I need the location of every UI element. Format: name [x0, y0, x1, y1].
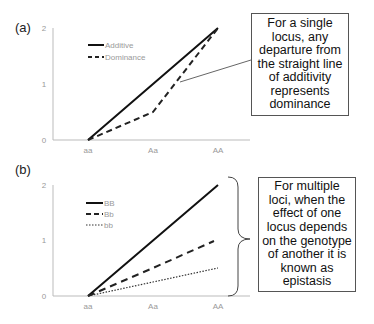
- x-tick-b-aa: aa: [84, 302, 93, 311]
- y-tick-b-2: 2: [42, 181, 47, 190]
- x-tick-a-AA: AA: [213, 146, 224, 155]
- x-tick-a-aa: aa: [84, 146, 93, 155]
- curly-brace: [228, 177, 250, 296]
- x-tick-b-Aa: Aa: [148, 302, 158, 311]
- chart-a: 2 1 0 aa Aa AA Additive Dominance: [42, 24, 251, 155]
- callout-epistasis: For multiple loci, when the effect of on…: [258, 177, 356, 292]
- x-tick-a-Aa: Aa: [148, 146, 158, 155]
- callout-epistasis-text: For multiple loci, when the effect of on…: [262, 180, 352, 289]
- legend-dominance-label: Dominance: [105, 53, 146, 62]
- legend-BB-label: BB: [104, 199, 115, 208]
- callout-dominance-text: For a single locus, any departure from t…: [255, 17, 345, 112]
- y-tick-a-0: 0: [42, 136, 47, 145]
- legend-Bb-label: Bb: [104, 210, 114, 219]
- legend-bb-label: bb: [104, 221, 113, 230]
- legend-additive-label: Additive: [105, 41, 134, 50]
- panel-label-a: (a): [15, 20, 31, 35]
- y-tick-a-2: 2: [42, 24, 47, 33]
- callout-dominance: For a single locus, any departure from t…: [251, 13, 349, 116]
- y-tick-b-0: 0: [42, 292, 47, 301]
- series-bb-line: [88, 268, 218, 296]
- series-Bb-line: [88, 241, 214, 296]
- chart-b: 2 1 0 aa Aa AA BB Bb bb: [42, 177, 250, 311]
- panel-label-b: (b): [15, 162, 31, 177]
- y-tick-b-1: 1: [42, 236, 47, 245]
- y-tick-a-1: 1: [42, 80, 47, 89]
- x-tick-b-AA: AA: [213, 302, 224, 311]
